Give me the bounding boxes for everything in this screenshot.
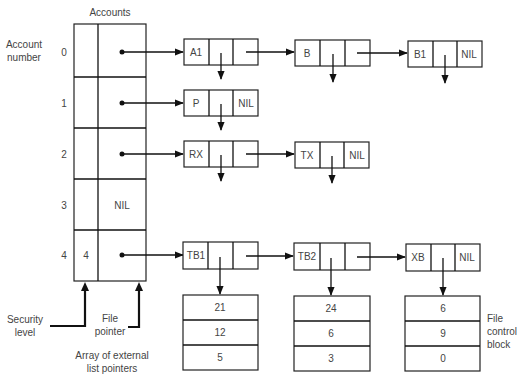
nil-pointer: NIL [114,200,130,211]
account-number-label: Account number [6,39,42,63]
svg-text:pointer: pointer [95,326,126,337]
svg-text:RX: RX [189,149,203,160]
file-control-block: 6 9 0 [405,296,480,371]
svg-text:Security: Security [7,314,43,325]
svg-text:File: File [487,313,504,324]
list-node: A1 [184,39,294,79]
svg-text:NIL: NIL [349,150,365,161]
svg-text:B1: B1 [414,49,427,60]
list-node: XB NIL [406,244,480,295]
svg-text:TB2: TB2 [298,251,317,262]
security-level-callout: Security level [7,282,89,338]
accounts-title: Accounts [89,7,130,18]
external-list-pointers-diagram: Accounts Account number 0 1 2 3 4 4 NIL [0,0,526,387]
list-node: B1 NIL [408,41,482,83]
array-caption: Array of external list pointers [75,350,148,374]
list-node: RX [184,141,294,181]
svg-text:B: B [304,48,311,59]
list-node: TB2 [294,243,405,295]
accounts-array: 0 1 2 3 4 4 NIL [61,24,146,281]
list-node: B [295,40,407,82]
svg-text:TB1: TB1 [187,250,206,261]
list-node: TB1 [183,242,293,294]
account-index: 1 [61,98,67,109]
svg-text:number: number [7,52,42,63]
svg-text:level: level [15,327,36,338]
svg-text:A1: A1 [190,47,203,58]
svg-text:NIL: NIL [459,252,475,263]
account-index: 0 [61,47,67,58]
svg-text:5: 5 [217,352,223,363]
file-pointer-callout: File pointer [95,282,143,337]
account-index: 2 [61,149,67,160]
svg-text:XB: XB [411,252,425,263]
file-control-block-label: File control block [487,313,517,350]
svg-text:NIL: NIL [461,49,477,60]
svg-text:NIL: NIL [238,98,254,109]
list-node: TX NIL [295,142,369,183]
svg-text:Array of external: Array of external [75,350,148,361]
security-level-value: 4 [83,250,89,261]
svg-text:control: control [487,326,517,337]
svg-text:File: File [102,313,119,324]
svg-text:TX: TX [301,150,314,161]
account-index: 3 [61,200,67,211]
svg-text:24: 24 [325,303,337,314]
svg-text:list pointers: list pointers [87,363,138,374]
svg-text:21: 21 [214,302,226,313]
file-control-block: 21 12 5 [183,295,258,370]
svg-text:9: 9 [440,328,446,339]
svg-text:Account: Account [6,39,42,50]
list-node: P NIL [184,90,258,130]
svg-text:0: 0 [440,353,446,364]
svg-text:P: P [193,98,200,109]
file-control-block: 24 6 3 [294,296,370,371]
svg-text:block: block [487,339,511,350]
account-index: 4 [61,250,67,261]
svg-text:6: 6 [328,328,334,339]
svg-text:12: 12 [214,327,226,338]
svg-text:3: 3 [328,353,334,364]
svg-text:6: 6 [440,303,446,314]
